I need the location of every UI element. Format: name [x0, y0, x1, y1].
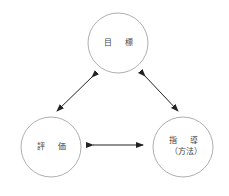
goal-text: 目 標	[104, 38, 138, 47]
arrow-goal-instruction	[145, 76, 178, 111]
node-instruction-label: 指 導 （方法）	[156, 135, 216, 157]
method-text: （方法）	[156, 146, 216, 157]
cycle-diagram	[0, 0, 229, 196]
evaluation-text: 評 価	[37, 142, 71, 151]
arrow-goal-evaluation	[57, 77, 92, 111]
node-goal-label: 目 標	[91, 37, 151, 48]
node-evaluation-label: 評 価	[24, 141, 84, 152]
instruction-text: 指 導	[156, 135, 216, 146]
